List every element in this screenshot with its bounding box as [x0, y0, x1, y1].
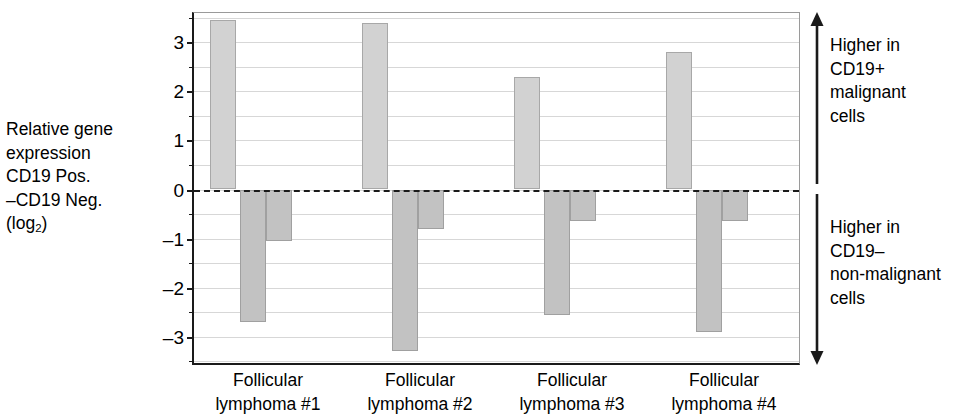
bar	[722, 190, 748, 222]
gridline	[194, 67, 799, 68]
y-axis-tick-minor	[189, 312, 194, 313]
y-axis-tick-major	[187, 239, 194, 241]
y-axis-tick-major	[187, 190, 194, 192]
x-axis-group-label: Follicularlymphoma #1	[192, 369, 344, 416]
x-axis-group-label-line: Follicular	[648, 369, 800, 393]
bar	[666, 52, 692, 189]
bar	[418, 190, 444, 229]
x-axis-group-label: Follicularlymphoma #4	[648, 369, 800, 416]
y-axis-tick-label: –1	[163, 229, 184, 248]
x-axis-group-label-line: lymphoma #2	[344, 393, 496, 417]
y-axis-label-line-2: expression	[6, 142, 158, 166]
y-axis-tick-label: –2	[163, 278, 184, 297]
log-base-subscript: 2	[35, 222, 41, 234]
y-axis-tick-minor	[189, 263, 194, 264]
y-axis-tick-label: 3	[173, 33, 184, 52]
y-axis-label-line-1: Relative gene	[6, 118, 158, 142]
annotation-line: Higher in	[830, 34, 968, 58]
annotation-line: Higher in	[830, 216, 968, 240]
bar	[544, 190, 570, 315]
y-axis-tick-minor	[189, 116, 194, 117]
bar	[266, 190, 292, 241]
y-axis-tick-label: 2	[173, 82, 184, 101]
bar	[240, 190, 266, 322]
plot-area: 3210–1–2–3	[192, 12, 800, 365]
double-headed-arrow-icon	[806, 12, 828, 365]
y-axis-label-line-4: –CD19 Neg.	[6, 189, 158, 213]
y-axis-tick-label: 0	[173, 180, 184, 199]
log-prefix: (log	[6, 213, 35, 233]
gridline	[194, 165, 799, 166]
gridline	[194, 18, 799, 19]
y-axis-tick-major	[187, 42, 194, 44]
x-axis-group-label-line: Follicular	[192, 369, 344, 393]
figure-root: Relative gene expression CD19 Pos. –CD19…	[0, 0, 968, 420]
y-axis-label-line-5: (log2)	[6, 212, 158, 238]
x-axis-group-label-line: Follicular	[344, 369, 496, 393]
x-axis-group-label-line: lymphoma #4	[648, 393, 800, 417]
annotation-line: cells	[830, 105, 968, 129]
y-axis-tick-major	[187, 288, 194, 290]
y-axis-tick-minor	[189, 361, 194, 362]
log-suffix: )	[42, 213, 48, 233]
gridline	[194, 91, 799, 92]
direction-arrow	[806, 12, 828, 365]
y-axis-tick-minor	[189, 214, 194, 215]
annotation-line: malignant	[830, 81, 968, 105]
y-axis-label: Relative gene expression CD19 Pos. –CD19…	[6, 118, 158, 238]
bar	[362, 23, 388, 190]
x-axis-group-label: Follicularlymphoma #3	[496, 369, 648, 416]
gridline	[194, 361, 799, 362]
gridline	[194, 337, 799, 338]
bar	[570, 190, 596, 222]
annotation-line: CD19–	[830, 240, 968, 264]
gridline	[194, 116, 799, 117]
zero-reference-line	[194, 190, 799, 192]
annotation-line: non-malignant	[830, 263, 968, 287]
y-axis-label-line-3: CD19 Pos.	[6, 165, 158, 189]
y-axis-tick-minor	[189, 165, 194, 166]
y-axis-tick-label: –3	[163, 327, 184, 346]
x-axis-labels: Follicularlymphoma #1Follicularlymphoma …	[192, 369, 800, 419]
gridline	[194, 42, 799, 43]
annotation-line: cells	[830, 287, 968, 311]
gridline	[194, 140, 799, 141]
y-axis-tick-minor	[189, 67, 194, 68]
bar	[210, 20, 236, 189]
y-axis-tick-major	[187, 91, 194, 93]
annotation-above-zero: Higher inCD19+malignantcells	[830, 34, 968, 128]
y-axis-tick-major	[187, 337, 194, 339]
y-axis-tick-minor	[189, 18, 194, 19]
bar	[392, 190, 418, 352]
y-axis-tick-major	[187, 140, 194, 142]
bar	[514, 77, 540, 190]
x-axis-group-label: Follicularlymphoma #2	[344, 369, 496, 416]
y-axis-tick-label: 1	[173, 131, 184, 150]
x-axis-group-label-line: Follicular	[496, 369, 648, 393]
bar	[696, 190, 722, 332]
annotation-below-zero: Higher inCD19–non-malignantcells	[830, 216, 968, 310]
x-axis-group-label-line: lymphoma #1	[192, 393, 344, 417]
x-axis-group-label-line: lymphoma #3	[496, 393, 648, 417]
annotation-line: CD19+	[830, 58, 968, 82]
